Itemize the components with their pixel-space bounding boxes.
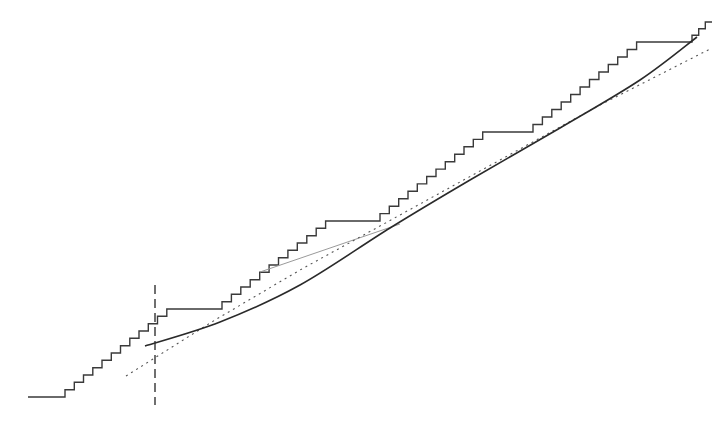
plot-area: [0, 0, 717, 448]
staircase-line: [28, 22, 712, 397]
faint-reference-line: [260, 224, 400, 272]
smooth-fit-curve: [145, 37, 697, 346]
step-function-diagram: [0, 0, 717, 448]
dotted-trend-line: [126, 48, 712, 376]
